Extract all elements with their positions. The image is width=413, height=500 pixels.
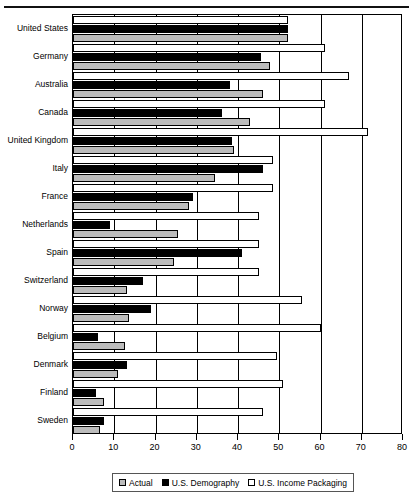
bar-group [73,211,401,239]
bar [73,165,263,173]
y-axis-label-germany: Germany [0,51,68,61]
x-axis-tick-50 [278,434,279,440]
x-axis-tick-label-40: 40 [232,442,242,453]
bar [73,230,178,238]
bar [73,342,125,350]
y-axis-label-netherlands: Netherlands [0,219,68,229]
legend-item: U.S. Demography [162,478,240,488]
y-axis-label-denmark: Denmark [0,359,68,369]
bar [73,258,174,266]
y-axis-label-france: France [0,191,68,201]
y-axis-label-united-states: United States [0,23,68,33]
x-axis-tick-20 [155,434,156,440]
bar [73,156,273,164]
x-axis-tick-label-80: 80 [397,442,407,453]
bar [73,128,368,136]
y-axis-label-united-kingdom: United Kingdom [0,135,68,145]
x-axis-tick-label-70: 70 [356,442,366,453]
bar [73,109,222,117]
bar-group [73,239,401,267]
x-axis-tick-label-10: 10 [108,442,118,453]
bar [73,249,242,257]
bar [73,221,110,229]
bar [73,184,273,192]
y-axis-label-sweden: Sweden [0,415,68,425]
bar [73,417,104,425]
bar-group [73,183,401,211]
bar [73,53,261,61]
bar [73,202,189,210]
bar [73,324,321,332]
bar [73,333,98,341]
bar [73,426,100,434]
y-axis-label-spain: Spain [0,247,68,257]
bar [73,34,288,42]
x-axis-tick-80 [402,434,403,440]
legend-label: U.S. Demography [172,478,240,488]
chart-legend: ActualU.S. DemographyU.S. Income Packagi… [112,473,354,492]
bar [73,352,277,360]
x-axis-tick-label-50: 50 [273,442,283,453]
bar-group [73,15,401,43]
legend-label: Actual [129,478,153,488]
bar [73,380,283,388]
x-axis-tick-label-60: 60 [314,442,324,453]
legend-swatch-white [248,479,255,486]
bar-group [73,99,401,127]
y-axis-label-switzerland: Switzerland [0,275,68,285]
bar [73,361,127,369]
bar [73,240,259,248]
legend-item: U.S. Income Packaging [248,478,347,488]
bar [73,389,96,397]
y-axis-label-italy: Italy [0,163,68,173]
top-divider-rule [4,6,409,8]
bar [73,370,118,378]
bar-group [73,407,401,435]
bar-group [73,71,401,99]
bar [73,212,259,220]
y-axis-label-belgium: Belgium [0,331,68,341]
legend-swatch-black [162,479,169,486]
y-axis-label-norway: Norway [0,303,68,313]
x-axis-tick-label-20: 20 [149,442,159,453]
bar [73,296,302,304]
legend-item: Actual [119,478,153,488]
bar [73,268,259,276]
x-axis-tick-30 [196,434,197,440]
chart-plot-area [72,14,402,434]
y-axis-category-labels: United StatesGermanyAustraliaCanadaUnite… [0,14,68,434]
bar [73,100,325,108]
bar [73,286,127,294]
x-axis-tick-0 [72,434,73,440]
bar [73,193,193,201]
y-axis-label-australia: Australia [0,79,68,89]
bar [73,72,349,80]
bar [73,174,215,182]
bar-group [73,351,401,379]
bar [73,146,234,154]
x-axis-tick-60 [320,434,321,440]
bar-group [73,379,401,407]
x-axis-tick-40 [237,434,238,440]
bar [73,305,151,313]
bar-group [73,43,401,71]
bar [73,398,104,406]
bar-group [73,295,401,323]
bar [73,25,288,33]
bar [73,277,143,285]
legend-label: U.S. Income Packaging [258,478,347,488]
bar-group [73,267,401,295]
bar [73,408,263,416]
x-axis-tick-70 [361,434,362,440]
bar [73,62,270,70]
bar [73,137,232,145]
bar [73,81,230,89]
x-axis-tick-label-30: 30 [191,442,201,453]
bar-group [73,155,401,183]
legend-swatch-gray [119,479,126,486]
bar [73,90,263,98]
bar [73,44,325,52]
x-axis: 01020304050607080 [72,434,402,458]
x-axis-tick-10 [113,434,114,440]
bar [73,16,288,24]
